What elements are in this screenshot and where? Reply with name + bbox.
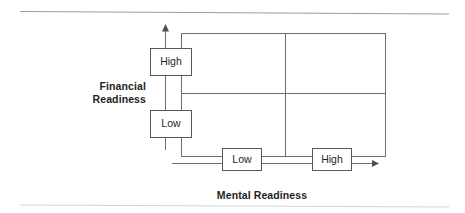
y-axis-arrowhead: [162, 24, 169, 32]
matrix-diagram-canvas: [0, 0, 465, 213]
bottom-rule: [20, 205, 449, 207]
y-tick-label-high: High: [150, 56, 192, 67]
y-axis-title-line1: Financial: [46, 80, 146, 93]
connector-lines: [172, 34, 386, 164]
x-tick-label-low: Low: [222, 154, 262, 165]
matrix-outer-border: [182, 34, 386, 157]
x-tick-label-high: High: [312, 154, 352, 165]
y-tick-label-low: Low: [150, 118, 192, 129]
matrix-grid: [182, 34, 386, 157]
readiness-matrix-figure: Financial Readiness Mental Readiness Hig…: [0, 0, 465, 213]
axis-lines: [166, 29, 375, 164]
y-axis-title-line2: Readiness: [46, 93, 146, 106]
x-axis-title: Mental Readiness: [182, 189, 342, 202]
x-axis-arrowhead: [372, 160, 379, 167]
top-rule: [20, 12, 449, 15]
y-axis-title: Financial Readiness: [46, 80, 146, 106]
